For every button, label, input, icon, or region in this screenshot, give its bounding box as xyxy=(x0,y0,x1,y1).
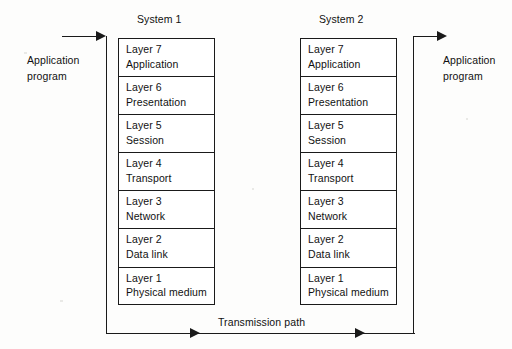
layer-row: Layer 1 Physical medium xyxy=(119,268,214,306)
layer-name: Physical medium xyxy=(308,285,396,300)
layer-row: Layer 2 Data link xyxy=(301,229,396,267)
right-application-program-line-2: program xyxy=(443,68,495,84)
layer-row: Layer 7 Application xyxy=(301,39,396,77)
system-1-stack: Layer 7 Application Layer 6 Presentation… xyxy=(118,38,215,305)
layer-row: Layer 4 Transport xyxy=(301,153,396,191)
layer-row: Layer 5 Session xyxy=(301,115,396,153)
system-1-title: System 1 xyxy=(137,13,182,26)
layer-name: Session xyxy=(126,133,214,148)
layer-number: Layer 3 xyxy=(308,194,396,209)
layer-number: Layer 2 xyxy=(126,232,214,247)
layer-row: Layer 3 Network xyxy=(301,191,396,229)
layer-row: Layer 3 Network xyxy=(119,191,214,229)
right-application-program-line-1: Application xyxy=(443,52,495,68)
scan-speckle xyxy=(252,188,254,190)
left-application-program-line-1: Application xyxy=(27,52,79,68)
layer-name: Application xyxy=(126,57,214,72)
left-application-program-line-2: program xyxy=(27,68,79,84)
layer-name: Data link xyxy=(126,247,214,262)
layer-name: Session xyxy=(308,133,396,148)
layer-number: Layer 7 xyxy=(126,42,214,57)
transmission-path-label: Transmission path xyxy=(214,316,309,329)
layer-number: Layer 6 xyxy=(126,80,214,95)
layer-row: Layer 6 Presentation xyxy=(301,77,396,115)
layer-row: Layer 1 Physical medium xyxy=(301,268,396,306)
left-connector-vertical-line xyxy=(106,36,107,334)
right-application-arrow-shaft xyxy=(413,36,439,37)
left-application-program-label: Application program xyxy=(27,52,79,84)
layer-number: Layer 5 xyxy=(126,118,214,133)
transmission-path-arrowhead-left xyxy=(190,328,200,338)
scan-speckle xyxy=(60,300,63,302)
layer-number: Layer 3 xyxy=(126,194,214,209)
system-2-stack: Layer 7 Application Layer 6 Presentation… xyxy=(300,38,397,305)
layer-number: Layer 5 xyxy=(308,118,396,133)
layer-name: Network xyxy=(126,209,214,224)
layer-name: Physical medium xyxy=(126,285,214,300)
layer-name: Transport xyxy=(308,171,396,186)
right-connector-vertical-line xyxy=(413,36,414,334)
layer-number: Layer 7 xyxy=(308,42,396,57)
transmission-path-line xyxy=(106,333,415,334)
layer-row: Layer 4 Transport xyxy=(119,153,214,191)
layer-number: Layer 2 xyxy=(308,232,396,247)
layer-row: Layer 5 Session xyxy=(119,115,214,153)
layer-name: Application xyxy=(308,57,396,72)
layer-name: Data link xyxy=(308,247,396,262)
layer-number: Layer 1 xyxy=(308,271,396,286)
layer-number: Layer 4 xyxy=(308,156,396,171)
layer-name: Presentation xyxy=(126,95,214,110)
layer-name: Network xyxy=(308,209,396,224)
left-application-arrowhead xyxy=(96,31,106,41)
scan-speckle xyxy=(466,118,468,120)
right-application-arrowhead xyxy=(437,31,447,41)
layer-number: Layer 6 xyxy=(308,80,396,95)
layer-number: Layer 1 xyxy=(126,271,214,286)
right-application-program-label: Application program xyxy=(443,52,495,84)
system-2-title: System 2 xyxy=(319,13,364,26)
transmission-path-arrowhead-right xyxy=(355,328,365,338)
layer-row: Layer 6 Presentation xyxy=(119,77,214,115)
layer-name: Transport xyxy=(126,171,214,186)
layer-number: Layer 4 xyxy=(126,156,214,171)
layer-name: Presentation xyxy=(308,95,396,110)
osi-layer-diagram: System 1 System 2 Layer 7 Application La… xyxy=(0,0,512,349)
layer-row: Layer 2 Data link xyxy=(119,229,214,267)
layer-row: Layer 7 Application xyxy=(119,39,214,77)
left-application-arrow-shaft xyxy=(62,36,97,37)
